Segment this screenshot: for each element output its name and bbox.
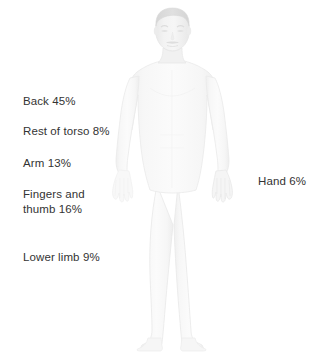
- body-percentage-diagram: Back 45% Rest of torso 8% Arm 13% Finger…: [0, 0, 319, 354]
- label-fingers-and-thumb-line1: Fingers and: [23, 187, 85, 201]
- left-hand: [113, 170, 133, 202]
- feet: [137, 338, 206, 351]
- lower-limbs: [140, 185, 204, 349]
- label-rest-of-torso: Rest of torso 8%: [23, 124, 110, 138]
- label-lower-limb: Lower limb 9%: [23, 250, 100, 264]
- torso: [127, 60, 218, 193]
- label-arm: Arm 13%: [23, 156, 71, 170]
- label-hand: Hand 6%: [258, 174, 306, 188]
- head: [154, 8, 191, 51]
- right-hand: [212, 170, 232, 202]
- label-back: Back 45%: [23, 94, 76, 108]
- label-fingers-and-thumb-line2: thumb 16%: [23, 202, 82, 216]
